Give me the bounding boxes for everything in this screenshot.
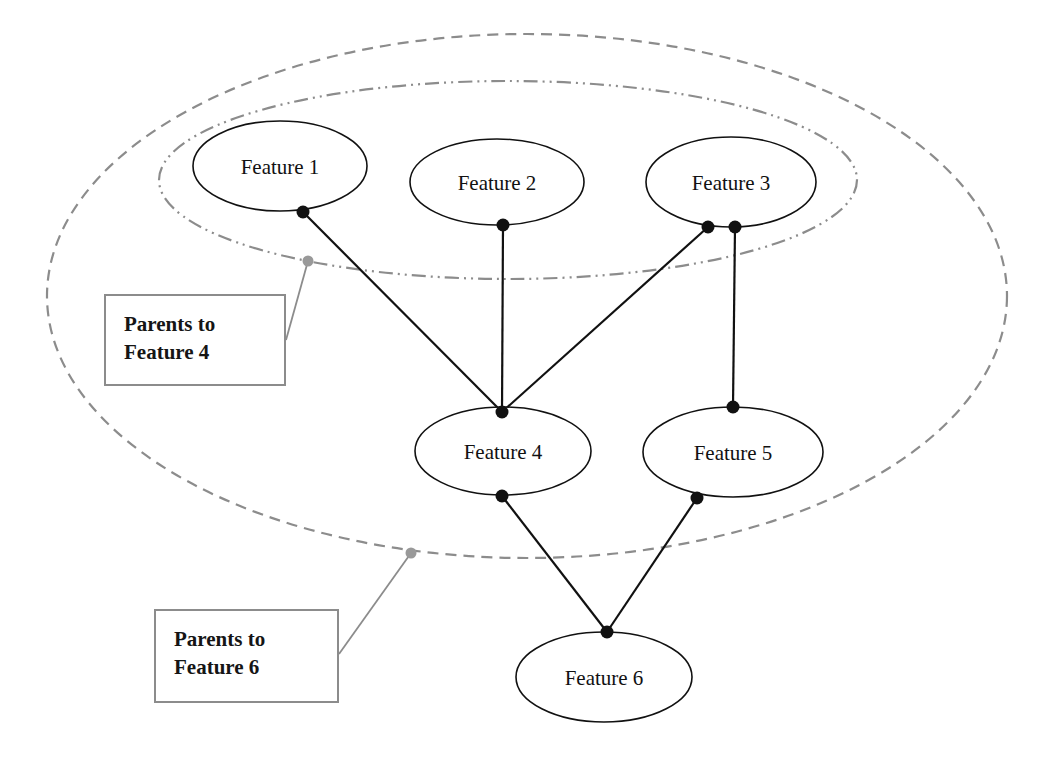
node-f2	[410, 139, 584, 225]
node-f6	[516, 632, 692, 722]
node-f1	[193, 121, 367, 211]
edge-feature-1-to-feature-4	[303, 212, 502, 412]
callout-line-1: Parents to	[174, 625, 337, 653]
callout-parents-to-feature-6: Parents to Feature 6	[154, 609, 339, 703]
callout-line-1: Parents to	[124, 310, 284, 338]
callout-anchor-dot	[406, 548, 417, 559]
callout-anchor-dot	[303, 256, 314, 267]
port-dot-icon	[496, 490, 509, 503]
edge-feature-4-to-feature-6	[502, 496, 607, 632]
port-dot-icon	[691, 492, 704, 505]
port-dot-icon	[702, 221, 715, 234]
callout-connector-line	[339, 553, 411, 654]
callout-line-2: Feature 4	[124, 338, 284, 366]
edge-feature-2-to-feature-4	[502, 225, 503, 412]
callout-connectors	[286, 256, 417, 655]
node-f3	[646, 137, 816, 227]
port-dot-icon	[601, 626, 614, 639]
edge-feature-3-to-feature-5	[733, 227, 735, 407]
edge-feature-5-to-feature-6	[607, 498, 697, 632]
port-dot-icon	[496, 406, 509, 419]
port-dot-icon	[729, 221, 742, 234]
port-dot-icon	[497, 219, 510, 232]
callout-parents-to-feature-4: Parents to Feature 4	[104, 294, 286, 386]
port-dot-icon	[727, 401, 740, 414]
port-dot-icon	[297, 206, 310, 219]
node-f5	[643, 407, 823, 497]
node-f4	[415, 407, 591, 495]
callout-line-2: Feature 6	[174, 653, 337, 681]
edge-feature-3-to-feature-4	[502, 227, 708, 412]
callout-connector-line	[286, 261, 308, 340]
